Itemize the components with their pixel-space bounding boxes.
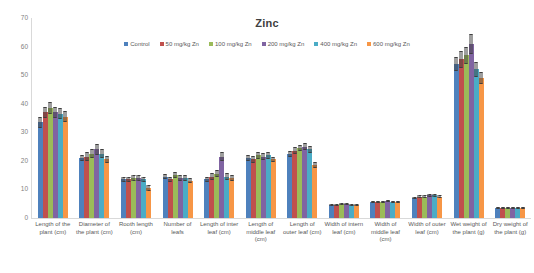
bar[interactable]: [229, 178, 234, 218]
error-bar: [465, 47, 468, 64]
bar[interactable]: [437, 197, 442, 218]
error-bar: [480, 72, 483, 83]
error-bar: [272, 157, 275, 163]
x-axis-label: Length of inter leaf (cm): [198, 221, 240, 244]
error-bar: [147, 185, 150, 190]
x-axis-label: Width of middle leaf (cm): [365, 221, 407, 244]
x-axis-line: [31, 218, 531, 219]
bar-group: [281, 18, 323, 218]
error-bar: [44, 107, 47, 118]
bar-slot: [271, 159, 276, 218]
bar[interactable]: [104, 159, 109, 218]
bar-group: [406, 18, 448, 218]
error-bar: [391, 201, 394, 203]
bar-group: [448, 18, 490, 218]
bar[interactable]: [271, 159, 276, 218]
y-tick-label: 20: [6, 158, 28, 165]
error-bar: [293, 147, 296, 154]
y-axis: 010203040506070: [6, 18, 28, 218]
error-bar: [496, 207, 499, 209]
bar-group: [323, 18, 365, 218]
bar-slot: [395, 202, 400, 218]
error-bar: [381, 201, 384, 203]
error-bar: [39, 117, 42, 128]
error-bar: [169, 177, 172, 183]
error-bar: [179, 175, 182, 181]
x-axis-label: Rooth length (cm): [115, 221, 157, 244]
y-tick-label: 10: [6, 186, 28, 193]
error-bar: [501, 207, 504, 209]
bar-slot: [312, 165, 317, 218]
error-bar: [64, 111, 67, 122]
error-bar: [386, 200, 389, 202]
y-tick-label: 70: [6, 15, 28, 22]
error-bar: [438, 195, 441, 198]
error-bar: [475, 62, 478, 76]
bar-slot: [354, 205, 359, 218]
x-axis-label: Wet weight of the plant (g): [448, 221, 490, 244]
error-bar: [428, 194, 431, 197]
bar[interactable]: [146, 188, 151, 218]
error-bar: [189, 178, 192, 183]
error-bar: [511, 207, 514, 209]
bar-group: [240, 18, 282, 218]
bar-slot: [437, 197, 442, 218]
plot-area: 010203040506070 Length of the plant (cm)…: [0, 0, 534, 273]
error-bar: [95, 144, 98, 154]
bar-group: [115, 18, 157, 218]
error-bar: [423, 195, 426, 198]
error-bar: [59, 108, 62, 119]
error-bar: [174, 172, 177, 178]
bar[interactable]: [479, 78, 484, 218]
bar-slot: [63, 117, 68, 218]
error-bar: [303, 143, 306, 150]
bar-group: [489, 18, 531, 218]
error-bar: [80, 155, 83, 162]
x-axis-label: Length of outer leaf (cm): [281, 221, 323, 244]
error-bar: [455, 57, 458, 71]
error-bar: [257, 152, 260, 159]
y-tick-label: 30: [6, 129, 28, 136]
error-bar: [521, 207, 524, 209]
bar-slot: [479, 78, 484, 218]
error-bar: [210, 173, 213, 180]
error-bar: [252, 156, 255, 163]
bar-group: [198, 18, 240, 218]
error-bar: [262, 153, 265, 160]
error-bar: [335, 204, 338, 206]
error-bar: [225, 173, 228, 180]
error-bar: [267, 152, 270, 159]
bar[interactable]: [63, 117, 68, 218]
error-bar: [350, 204, 353, 206]
error-bar: [247, 155, 250, 161]
bar-slot: [104, 159, 109, 218]
x-axis-label: Diameter of the plant (cm): [74, 221, 116, 244]
bar[interactable]: [188, 181, 193, 218]
x-axis-label: Width of intern leaf (cm): [323, 221, 365, 244]
bar-slot: [229, 178, 234, 218]
error-bar: [205, 177, 208, 183]
y-tick-label: 60: [6, 43, 28, 50]
error-bar: [376, 201, 379, 203]
error-bar: [142, 177, 145, 182]
error-bar: [330, 204, 333, 206]
error-bar: [345, 203, 348, 205]
error-bar: [340, 203, 343, 205]
x-axis-label: Number of leafs: [157, 221, 199, 244]
bar[interactable]: [520, 208, 525, 218]
error-bar: [215, 170, 218, 177]
error-bar: [164, 174, 167, 179]
y-tick-label: 0: [6, 215, 28, 222]
bar-slot: [188, 181, 193, 218]
bar-groups: [32, 18, 531, 218]
bar[interactable]: [354, 205, 359, 218]
error-bar: [137, 175, 140, 181]
y-tick-label: 40: [6, 100, 28, 107]
error-bar: [298, 145, 301, 152]
error-bar: [49, 102, 52, 113]
x-axis-label: Dry weight of the plant (g): [489, 221, 531, 244]
error-bar: [506, 207, 509, 209]
bar[interactable]: [395, 202, 400, 218]
bar[interactable]: [312, 165, 317, 218]
bar-slot: [520, 208, 525, 218]
